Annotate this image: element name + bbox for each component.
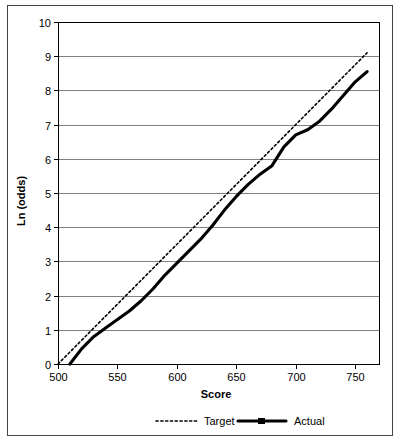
gridlines-group	[58, 23, 379, 331]
series-line-target	[58, 53, 367, 364]
x-tick-label: 650	[227, 371, 245, 383]
y-tick-label: 5	[45, 188, 51, 200]
y-tick-label: 0	[45, 359, 51, 371]
y-tick-label: 2	[45, 291, 51, 303]
x-tick-label: 550	[108, 371, 126, 383]
y-axis-tick-labels: 012345678910	[39, 17, 51, 371]
x-tick-label: 500	[49, 371, 67, 383]
x-axis-title: Score	[201, 388, 232, 400]
x-tick-label: 600	[168, 371, 186, 383]
x-tick-label: 700	[287, 371, 305, 383]
y-tick-label: 8	[45, 85, 51, 97]
chart-legend: Target Actual	[156, 415, 325, 427]
y-tick-label: 4	[45, 222, 51, 234]
ln-odds-vs-score-line-chart: 012345678910 500550600650700750 Ln (odds…	[8, 6, 392, 435]
y-axis-title: Ln (odds)	[15, 176, 27, 226]
data-series-group	[58, 53, 367, 364]
series-line-actual	[70, 72, 367, 364]
legend-label-target: Target	[204, 415, 235, 427]
y-tick-label: 10	[39, 17, 51, 29]
y-axis-tickmarks	[54, 23, 58, 365]
x-tick-label: 750	[346, 371, 364, 383]
legend-label-actual: Actual	[294, 415, 325, 427]
legend-marker-actual	[258, 418, 265, 424]
y-tick-label: 3	[45, 256, 51, 268]
y-tick-label: 6	[45, 154, 51, 166]
y-tick-label: 1	[45, 325, 51, 337]
chart-frame: 012345678910 500550600650700750 Ln (odds…	[7, 5, 393, 436]
y-tick-label: 9	[45, 51, 51, 63]
x-axis-tick-labels: 500550600650700750	[49, 371, 364, 383]
y-tick-label: 7	[45, 120, 51, 132]
